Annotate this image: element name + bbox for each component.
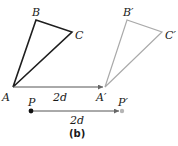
label-b: B <box>31 6 40 19</box>
figure-caption: (b) <box>69 128 85 139</box>
label-a-prime: A′ <box>95 91 107 104</box>
label-p-prime: P′ <box>117 96 128 109</box>
triangle-vector-label: 2d <box>52 91 67 104</box>
label-a: A <box>1 91 10 104</box>
original-triangle <box>13 20 72 87</box>
label-c-prime: C′ <box>165 29 176 42</box>
point-p-prime-dot <box>120 109 124 113</box>
translated-triangle <box>105 20 162 87</box>
point-p-dot <box>29 109 34 114</box>
label-c: C <box>75 29 84 42</box>
label-b-prime: B′ <box>122 6 134 19</box>
point-vector-label: 2d <box>69 114 84 127</box>
translation-diagram: A B C A′ B′ C′ 2d P P′ 2d (b) <box>0 0 178 146</box>
label-p: P <box>27 96 36 109</box>
